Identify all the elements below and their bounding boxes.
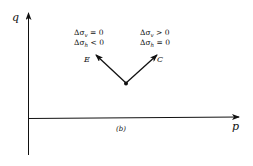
relation: < 0 [88, 38, 104, 47]
delta-sigma-symbol: Δσ [140, 38, 151, 47]
p-axis [28, 117, 239, 119]
delta-sigma-symbol: Δσ [140, 28, 151, 37]
delta-sigma-symbol: Δσ [74, 28, 85, 37]
initial-stress-point [124, 82, 128, 86]
path-E-condition-vertical: Δσv = 0 [74, 28, 104, 38]
relation: = 0 [88, 28, 104, 37]
path-C-condition-horizontal: Δσh = 0 [140, 38, 170, 48]
delta-sigma-symbol: Δσ [74, 38, 85, 47]
path-C-arrow [126, 55, 157, 83]
path-C-label: C [157, 55, 163, 64]
path-E-condition-horizontal: Δσh < 0 [74, 38, 104, 48]
q-axis-label: q [12, 11, 19, 24]
relation: = 0 [154, 38, 170, 47]
stress-path-diagram: q p (b) Δσv = 0 Δσh < 0 E Δσv > 0 Δσh = … [0, 0, 253, 166]
path-E-arrow [96, 55, 126, 83]
path-C-condition-vertical: Δσv > 0 [140, 28, 170, 38]
path-E-label: E [83, 55, 90, 64]
relation: > 0 [154, 28, 170, 37]
figure-caption: (b) [116, 125, 126, 133]
p-axis-label: p [232, 120, 239, 133]
